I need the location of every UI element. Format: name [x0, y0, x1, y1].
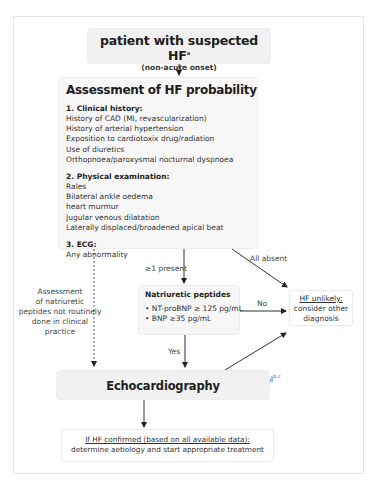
list-item: Exposition to cardiotoxix drug/radiation	[66, 134, 257, 144]
hf-unlikely-node: HF unlikely: consider other diagnosis	[289, 290, 353, 326]
label-all-absent: All absent	[250, 254, 287, 263]
side-note: Assessment of natriuretic peptides not r…	[14, 287, 106, 337]
list-item: • BNP ≥35 pg/mL	[145, 314, 239, 324]
section-heading: 3. ECG:	[66, 240, 257, 250]
echo-title: Echocardiography	[57, 371, 269, 401]
list-item: Rales	[66, 182, 257, 192]
list-item: • NT-proBNP ≥ 125 pg/mL	[145, 304, 239, 314]
list-item: Laterally displaced/broadened apical bea…	[66, 223, 257, 233]
echocardiography-node: Echocardiography	[56, 370, 270, 400]
natriuretic-node: Natriuretic peptides • NT-proBNP ≥ 125 p…	[138, 285, 240, 335]
label-present: ≥1 present	[145, 264, 187, 273]
label-yes: Yes	[168, 347, 180, 356]
label-no: No	[257, 299, 267, 308]
assessment-title: Assessment of HF probability	[66, 83, 257, 97]
section-heading: 1. Clinical history:	[66, 104, 257, 114]
hf-confirmed-node: If HF confirmed (based on all available …	[61, 429, 274, 462]
assessment-node: Assessment of HF probability 1. Clinical…	[58, 77, 258, 249]
start-node: patient with suspected HFa (non-acute on…	[87, 28, 271, 64]
list-item: Use of diuretics	[66, 145, 257, 155]
list-item: Any abnormality	[66, 250, 257, 260]
list-item: Orthopnoea/paroxysmal nocturnal dyspnoea	[66, 155, 257, 165]
start-title: patient with suspected HFa	[88, 33, 270, 63]
list-item: History of arterial hypertension	[66, 124, 257, 134]
section-heading: 2. Physical examination:	[66, 172, 257, 182]
list-item: Bilateral ankle oedema	[66, 192, 257, 202]
confirmed-heading: If HF confirmed (based on all available …	[62, 435, 273, 445]
list-item: heart murmur	[66, 202, 257, 212]
unlikely-heading: HF unlikely:	[290, 294, 352, 304]
list-item: History of CAD (MI, revascularization)	[66, 114, 257, 124]
natriuretic-title: Natriuretic peptides	[145, 290, 239, 299]
list-item: Jugular venous dilatation	[66, 213, 257, 223]
start-subtitle: (non-acute onset)	[88, 63, 270, 72]
